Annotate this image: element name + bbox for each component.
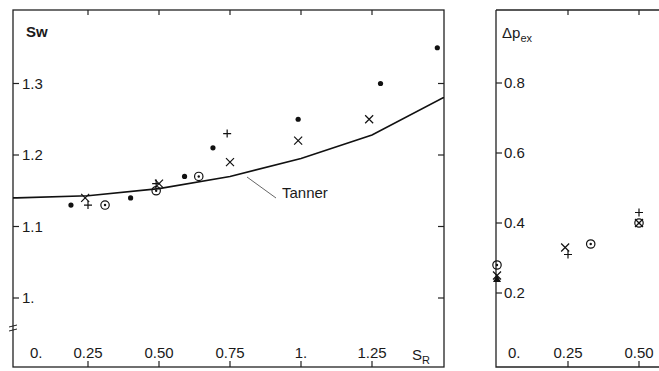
cross-marker: [635, 219, 643, 227]
left-data-points: [68, 45, 440, 209]
y-tick-label: 0.6: [504, 144, 525, 161]
y-tick-label: 1.2: [22, 146, 43, 163]
tanner-leader-line: [247, 177, 276, 198]
x-tick-label: 0.75: [215, 344, 244, 361]
dot-marker: [128, 195, 133, 200]
dot-marker: [435, 45, 440, 50]
left-x-ticks: [88, 10, 372, 367]
plus-marker: [84, 201, 92, 209]
left-y-axis-title: Sw: [26, 23, 48, 40]
cross-marker: [226, 158, 234, 166]
x-tick-label: 0.25: [553, 344, 582, 361]
left-x-axis-title: SR: [412, 346, 430, 366]
right-x-ticks: [568, 10, 639, 367]
left-y-tick-labels: 1.1.11.21.3: [22, 75, 43, 307]
left-plot-frame: [13, 10, 444, 367]
x-tick-label: 0.50: [144, 344, 173, 361]
left-chart-sw: Sw 1.1.11.21.3 0.0.250.500.751.1.25 SR T…: [9, 10, 444, 367]
dot-marker: [296, 117, 301, 122]
figure: Sw 1.1.11.21.3 0.0.250.500.751.1.25 SR T…: [0, 0, 659, 371]
plus-marker: [223, 130, 231, 138]
tanner-annotation: Tanner: [282, 184, 328, 201]
right-y-axis-title: Δpex: [502, 24, 532, 44]
right-y-tick-labels: 0.20.40.60.8: [504, 74, 525, 301]
dot-marker: [378, 81, 383, 86]
y-tick-label: 0.4: [504, 214, 525, 231]
right-chart-dpex: Δpex 0.20.40.60.8 0.0.250.50: [493, 10, 659, 367]
y-tick-label: 1.: [22, 289, 35, 306]
dot-marker: [182, 174, 187, 179]
x-tick-label: 0.: [508, 344, 521, 361]
dot-marker: [68, 202, 73, 207]
plus-marker: [564, 251, 572, 259]
y-tick-label: 1.3: [22, 75, 43, 92]
y-tick-label: 0.2: [504, 284, 525, 301]
cross-marker: [561, 244, 569, 252]
right-x-tick-labels: 0.0.250.50: [508, 344, 654, 361]
x-tick-label: 0.: [30, 344, 43, 361]
tanner-curve: [13, 98, 444, 198]
y-tick-label: 1.1: [22, 218, 43, 235]
y-tick-label: 0.8: [504, 74, 525, 91]
right-plot-frame: [496, 10, 659, 367]
x-tick-label: 1.25: [357, 344, 386, 361]
cross-marker: [294, 137, 302, 145]
left-x-tick-labels: 0.0.250.500.751.1.25: [30, 344, 387, 361]
x-tick-label: 0.25: [73, 344, 102, 361]
plus-marker: [635, 209, 643, 217]
dot-marker: [210, 145, 215, 150]
left-y-ticks: [13, 84, 444, 299]
x-tick-label: 1.: [295, 344, 308, 361]
x-tick-label: 0.50: [624, 344, 653, 361]
cross-marker: [365, 115, 373, 123]
